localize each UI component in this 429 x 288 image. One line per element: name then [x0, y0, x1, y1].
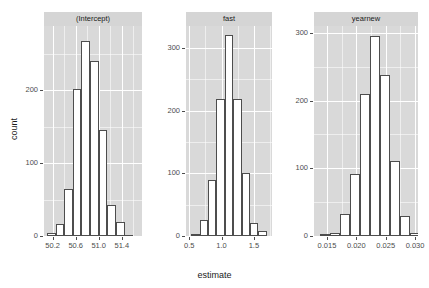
facet-strip: yearnew	[314, 12, 418, 26]
x-axis-tick-label: 0.5	[175, 241, 203, 250]
gridline-major-vertical	[122, 26, 123, 236]
gridline-major-vertical	[53, 26, 54, 236]
facet-strip-label: fast	[186, 12, 272, 26]
gridline-minor-vertical	[342, 26, 343, 236]
y-axis-tick-label: 0	[288, 231, 308, 240]
y-axis-tick-label: 100	[288, 163, 308, 172]
histogram-bar	[370, 36, 380, 236]
gridline-minor-horizontal	[44, 54, 142, 55]
histogram-bar	[64, 189, 73, 236]
x-axis-tick-mark	[189, 237, 190, 240]
histogram-bar	[250, 223, 258, 236]
histogram-bar	[73, 89, 82, 236]
gridline-minor-vertical	[400, 26, 401, 236]
y-axis-tick-mark	[310, 33, 313, 34]
histogram-bar	[225, 35, 233, 236]
plot-panel	[44, 26, 142, 236]
histogram-bar	[390, 161, 400, 236]
y-axis-tick-mark	[182, 173, 185, 174]
histogram-bar	[200, 220, 208, 236]
histogram-bar	[242, 173, 250, 236]
x-axis-tick-label: 51.4	[108, 241, 136, 250]
x-axis-tick-mark	[415, 237, 416, 240]
x-axis-tick-mark	[327, 237, 328, 240]
x-axis-tick-mark	[53, 237, 54, 240]
y-axis-tick-label: 300	[160, 43, 180, 52]
y-axis-tick-mark	[40, 236, 43, 237]
gridline-major-vertical	[415, 26, 416, 236]
x-axis-tick-label: 1.0	[208, 241, 236, 250]
gridline-minor-vertical	[133, 26, 134, 236]
histogram-bar	[330, 233, 340, 236]
histogram-bar	[350, 174, 360, 236]
x-axis-tick-mark	[386, 237, 387, 240]
facet-strip-label: (Intercept)	[44, 12, 142, 26]
histogram-bar	[56, 224, 65, 236]
x-axis-tick-label: 0.015	[313, 241, 341, 250]
histogram-bar	[320, 234, 330, 236]
gridline-major-vertical	[189, 26, 190, 236]
y-axis-tick-label: 200	[18, 85, 38, 94]
x-axis-tick-label: 0.025	[372, 241, 400, 250]
y-axis-tick-label: 100	[160, 168, 180, 177]
y-axis-tick-label: 300	[288, 28, 308, 37]
histogram-bar	[90, 61, 99, 236]
facet-strip: (Intercept)	[44, 12, 142, 26]
x-axis-tick-mark	[99, 237, 100, 240]
x-axis-tick-label: 0.030	[401, 241, 429, 250]
histogram-bar	[116, 222, 125, 236]
y-axis-tick-label: 200	[288, 96, 308, 105]
y-axis-title: count	[9, 99, 19, 159]
histogram-bar	[258, 231, 266, 236]
x-axis-tick-mark	[76, 237, 77, 240]
x-axis-tick-mark	[254, 237, 255, 240]
y-axis-tick-mark	[40, 90, 43, 91]
histogram-bar	[191, 234, 199, 236]
facet-strip: fast	[186, 12, 272, 26]
x-axis-title: estimate	[0, 270, 429, 280]
y-axis-tick-label: 0	[18, 231, 38, 240]
y-axis-tick-mark	[310, 236, 313, 237]
histogram-bar	[340, 214, 350, 236]
gridline-major-vertical	[254, 26, 255, 236]
histogram-bar	[360, 94, 370, 236]
histogram-bar	[107, 205, 116, 236]
histogram-bar	[400, 216, 410, 236]
x-axis-tick-mark	[122, 237, 123, 240]
gridline-major-vertical	[327, 26, 328, 236]
histogram-bar	[208, 180, 216, 236]
histogram-bar	[99, 130, 108, 236]
x-axis-tick-mark	[356, 237, 357, 240]
y-axis-tick-label: 200	[160, 106, 180, 115]
y-axis-tick-mark	[182, 236, 185, 237]
facet-strip-label: yearnew	[314, 12, 418, 26]
histogram-bar	[81, 41, 90, 236]
x-axis-tick-mark	[222, 237, 223, 240]
y-axis-tick-mark	[310, 101, 313, 102]
plot-panel	[186, 26, 272, 236]
gridline-minor-vertical	[270, 26, 271, 236]
histogram-bar	[233, 99, 241, 236]
histogram-bar	[47, 233, 56, 236]
histogram-bar	[125, 235, 134, 236]
y-axis-tick-mark	[310, 168, 313, 169]
y-axis-tick-label: 0	[160, 231, 180, 240]
y-axis-tick-mark	[40, 163, 43, 164]
x-axis-tick-label: 0.020	[342, 241, 370, 250]
y-axis-tick-label: 100	[18, 158, 38, 167]
histogram-bar	[380, 75, 390, 236]
y-axis-tick-mark	[182, 48, 185, 49]
gridline-major-horizontal	[314, 33, 418, 34]
histogram-bar	[216, 99, 224, 236]
y-axis-tick-mark	[182, 111, 185, 112]
gridline-minor-vertical	[205, 26, 206, 236]
histogram-figure: count estimate (Intercept)fastyearnew 01…	[0, 0, 429, 288]
x-axis-tick-label: 1.5	[240, 241, 268, 250]
gridline-minor-horizontal	[314, 67, 418, 68]
plot-panel	[314, 26, 418, 236]
histogram-bar	[410, 233, 418, 236]
